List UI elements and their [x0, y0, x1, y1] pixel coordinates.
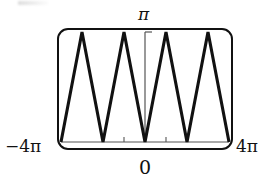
- scan-artifact: [18, 1, 48, 5]
- y-axis-max-label: π: [138, 6, 149, 23]
- x-axis-min-label: −4π: [5, 138, 41, 155]
- plot-area: [57, 28, 233, 150]
- x-axis-max-label: 4π: [236, 138, 258, 155]
- figure-canvas: ) π 0 −4π 4π: [0, 0, 259, 187]
- origin-label: 0: [139, 158, 151, 177]
